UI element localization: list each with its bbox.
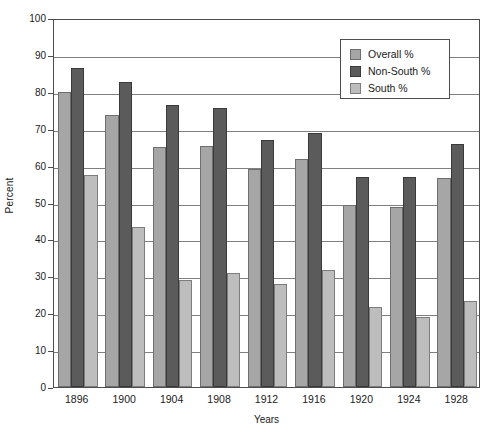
bar	[84, 175, 97, 387]
legend-item: Overall %	[350, 46, 449, 62]
bar	[105, 115, 118, 387]
x-tick-label: 1924	[385, 393, 432, 405]
y-tick-label: 60	[0, 161, 46, 172]
bar	[200, 146, 213, 387]
x-tick-label: 1920	[338, 393, 385, 405]
legend-label-overall: Overall %	[368, 48, 414, 60]
bar	[390, 207, 403, 387]
bar	[451, 144, 464, 387]
bar	[403, 177, 416, 387]
y-tick-label: 50	[0, 198, 46, 209]
x-tick-label: 1900	[100, 393, 147, 405]
legend-swatch-overall	[350, 49, 361, 60]
legend-item: South %	[350, 80, 449, 96]
bar	[71, 68, 84, 387]
bar	[153, 147, 166, 387]
bar	[166, 105, 179, 387]
bar	[132, 227, 145, 387]
y-tick-label: 0	[0, 382, 46, 393]
y-tick-mark	[48, 388, 53, 389]
bar	[248, 169, 261, 387]
y-tick-label: 20	[0, 308, 46, 319]
y-tick-label: 80	[0, 87, 46, 98]
y-tick-label: 30	[0, 271, 46, 282]
legend-label-non-south: Non-South %	[368, 65, 430, 77]
y-tick-label: 100	[0, 13, 46, 24]
bar	[227, 273, 240, 387]
bar	[343, 205, 356, 387]
chart-legend: Overall % Non-South % South %	[340, 39, 450, 99]
bar	[261, 140, 274, 387]
bar	[179, 280, 192, 387]
x-axis-label: Years	[53, 414, 480, 425]
bar	[119, 82, 132, 387]
bar	[464, 301, 477, 387]
y-tick-label: 40	[0, 234, 46, 245]
bar	[437, 178, 450, 387]
bar	[308, 133, 321, 387]
bar	[58, 92, 71, 387]
bar	[369, 307, 382, 387]
y-tick-label: 10	[0, 345, 46, 356]
x-tick-label: 1912	[243, 393, 290, 405]
bar	[295, 159, 308, 387]
bar	[356, 177, 369, 387]
legend-swatch-south	[350, 83, 361, 94]
bar	[274, 284, 287, 387]
bar	[322, 270, 335, 387]
bar	[213, 108, 226, 387]
legend-label-south: South %	[368, 82, 408, 94]
bar	[416, 317, 429, 387]
y-tick-label: 90	[0, 50, 46, 61]
legend-item: Non-South %	[350, 63, 449, 79]
chart-figure: Percent 0102030405060708090100 189619001…	[0, 0, 487, 438]
x-tick-label: 1928	[433, 393, 480, 405]
x-tick-label: 1904	[148, 393, 195, 405]
y-tick-label: 70	[0, 124, 46, 135]
x-tick-label: 1916	[290, 393, 337, 405]
x-tick-label: 1908	[195, 393, 242, 405]
x-tick-label: 1896	[53, 393, 100, 405]
legend-swatch-non-south	[350, 66, 361, 77]
